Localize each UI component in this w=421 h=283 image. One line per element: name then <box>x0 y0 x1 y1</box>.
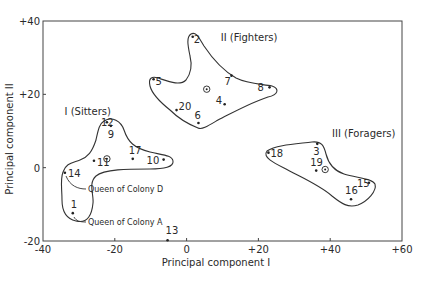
data-point-4: 4 <box>216 95 226 106</box>
point-marker <box>350 198 353 201</box>
point-marker <box>223 103 226 106</box>
cluster-outline-fighters <box>149 33 276 128</box>
data-point-10: 10 <box>147 155 165 166</box>
point-marker <box>71 212 74 215</box>
pca-scatter-chart: -40-200+20+40+60 +40+200-20 Principal co… <box>0 0 421 283</box>
y-tick-label: 0 <box>34 163 40 174</box>
point-label: 10 <box>147 155 160 166</box>
annotation-label: Queen of Colony A <box>88 218 163 227</box>
y-axis-title: Principal component II <box>4 83 15 194</box>
data-point-13: 13 <box>166 225 179 241</box>
data-point-2: 2 <box>191 34 200 45</box>
y-tick-label: +40 <box>19 16 40 27</box>
point-label: 2 <box>194 34 200 45</box>
point-label: 13 <box>166 225 179 236</box>
x-tick-label: +20 <box>248 244 269 255</box>
point-marker <box>267 151 270 154</box>
point-marker <box>110 125 113 128</box>
data-point-19: 19 <box>310 157 323 172</box>
data-point-5: 5 <box>152 76 162 87</box>
point-label: 3 <box>313 146 319 157</box>
y-tick-label: -20 <box>24 236 40 247</box>
data-point-17: 17 <box>129 145 142 160</box>
cluster-label: II (Fighters) <box>221 32 278 43</box>
point-label: 9 <box>108 129 114 140</box>
point-label: 5 <box>156 76 162 87</box>
point-marker <box>175 109 178 112</box>
y-axis-ticks: +40+200-20 <box>19 16 46 247</box>
point-label: 6 <box>194 110 200 121</box>
point-marker <box>152 78 155 81</box>
data-point-8: 8 <box>258 82 271 93</box>
annotation-label: Queen of Colony D <box>88 185 163 194</box>
x-tick-label: 0 <box>183 244 189 255</box>
point-marker <box>316 143 319 146</box>
x-axis-title: Principal component I <box>162 257 271 268</box>
data-point-1: 1 <box>71 199 77 214</box>
data-point-18: 18 <box>267 148 283 159</box>
point-marker <box>268 86 271 89</box>
point-label: 17 <box>129 145 142 156</box>
data-point-15: 15 <box>357 178 370 189</box>
data-point-3: 3 <box>313 143 319 157</box>
point-marker <box>197 122 200 125</box>
point-label: 15 <box>357 178 370 189</box>
centroid-marker <box>204 86 210 92</box>
point-marker <box>131 158 134 161</box>
point-label: 8 <box>258 82 264 93</box>
point-label: 19 <box>310 157 323 168</box>
data-point-16: 16 <box>345 185 358 200</box>
x-tick-label: +40 <box>320 244 341 255</box>
point-label: 16 <box>345 185 358 196</box>
point-label: 20 <box>179 101 192 112</box>
point-label: 14 <box>68 168 81 179</box>
point-marker <box>166 239 169 242</box>
point-label: 18 <box>270 148 283 159</box>
data-point-20: 20 <box>175 101 191 112</box>
centroid-marker <box>322 166 328 172</box>
annotation-queen-colony-a: Queen of Colony A <box>74 217 163 227</box>
y-tick-label: +20 <box>19 89 40 100</box>
point-label: 1 <box>71 199 77 210</box>
point-marker <box>162 158 165 161</box>
data-points-layer: 1291117101412578420618319151613 <box>64 34 371 242</box>
point-marker <box>315 169 318 172</box>
x-tick-label: +60 <box>391 244 412 255</box>
x-tick-label: -20 <box>107 244 123 255</box>
point-label: 7 <box>224 76 230 87</box>
point-marker <box>93 159 96 162</box>
point-label: 4 <box>216 95 222 106</box>
cluster-label: III (Foragers) <box>332 128 396 139</box>
data-point-7: 7 <box>224 74 232 86</box>
point-marker <box>64 172 67 175</box>
cluster-label: I (Sitters) <box>65 106 111 117</box>
data-point-6: 6 <box>194 110 200 124</box>
